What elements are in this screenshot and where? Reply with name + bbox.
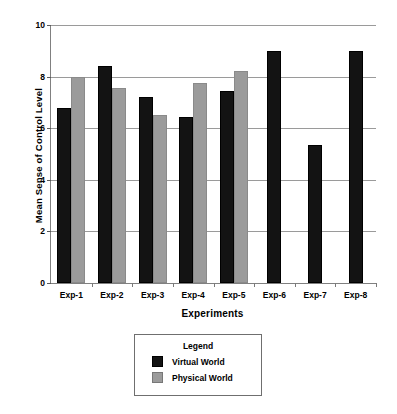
y-axis-tick bbox=[47, 283, 51, 284]
x-axis-tick bbox=[92, 283, 93, 287]
y-axis-tick-label: 2 bbox=[40, 226, 45, 236]
x-axis-tick bbox=[376, 283, 377, 287]
bar-group: Exp-3 bbox=[132, 25, 173, 283]
bar-group: Exp-7 bbox=[295, 25, 336, 283]
x-axis-tick-label-exp-6: Exp-6 bbox=[263, 290, 286, 300]
bar-exp-4-virtual-world bbox=[179, 117, 193, 283]
x-axis-tick bbox=[295, 283, 296, 287]
bar-group: Exp-2 bbox=[92, 25, 133, 283]
bar-exp-2-virtual-world bbox=[98, 66, 112, 283]
legend-title: Legend bbox=[135, 341, 261, 351]
bar-group: Exp-4 bbox=[173, 25, 214, 283]
legend-swatch-virtual-world-icon bbox=[152, 356, 163, 367]
x-axis-tick-label-exp-8: Exp-8 bbox=[344, 290, 367, 300]
legend-label-physical-world: Physical World bbox=[172, 373, 233, 383]
x-axis-tick-label-exp-5: Exp-5 bbox=[222, 290, 245, 300]
bar-group: Exp-5 bbox=[214, 25, 255, 283]
bar-group: Exp-1 bbox=[51, 25, 92, 283]
bar-exp-5-virtual-world bbox=[220, 91, 234, 283]
x-axis-tick-label-exp-2: Exp-2 bbox=[100, 290, 123, 300]
bar-exp-6-virtual-world bbox=[267, 51, 281, 283]
plot-area: 0246810Exp-1Exp-2Exp-3Exp-4Exp-5Exp-6Exp… bbox=[50, 25, 376, 284]
bar-group: Exp-6 bbox=[254, 25, 295, 283]
bar-exp-3-virtual-world bbox=[139, 97, 153, 283]
x-axis-tick-label-exp-1: Exp-1 bbox=[60, 290, 83, 300]
bar-exp-8-virtual-world bbox=[349, 51, 363, 283]
bar-exp-3-physical-world bbox=[153, 115, 167, 283]
bar-exp-5-physical-world bbox=[234, 71, 248, 283]
bar-exp-4-physical-world bbox=[193, 83, 207, 283]
legend: Legend Virtual World Physical World bbox=[134, 334, 262, 396]
bar-exp-2-physical-world bbox=[112, 88, 126, 283]
legend-item-physical-world: Physical World bbox=[135, 372, 261, 383]
legend-label-virtual-world: Virtual World bbox=[172, 357, 225, 367]
y-axis-title: Mean Sense of Control Level bbox=[33, 26, 44, 286]
bar-group: Exp-8 bbox=[335, 25, 376, 283]
x-axis-tick bbox=[254, 283, 255, 287]
y-axis-tick-label: 10 bbox=[36, 20, 45, 30]
x-axis-tick bbox=[335, 283, 336, 287]
bar-exp-1-virtual-world bbox=[57, 108, 71, 283]
x-axis-tick-label-exp-3: Exp-3 bbox=[141, 290, 164, 300]
bar-chart: Mean Sense of Control Level 0246810Exp-1… bbox=[0, 0, 397, 414]
x-axis-tick bbox=[173, 283, 174, 287]
x-axis-tick-label-exp-4: Exp-4 bbox=[182, 290, 205, 300]
x-axis-title: Experiments bbox=[50, 308, 375, 319]
legend-item-virtual-world: Virtual World bbox=[135, 356, 261, 367]
bar-exp-1-physical-world bbox=[71, 77, 85, 283]
x-axis-tick bbox=[214, 283, 215, 287]
x-axis-tick-label-exp-7: Exp-7 bbox=[303, 290, 326, 300]
y-axis-tick-label: 6 bbox=[40, 123, 45, 133]
legend-swatch-physical-world-icon bbox=[152, 372, 163, 383]
x-axis-tick bbox=[132, 283, 133, 287]
y-axis-tick-label: 8 bbox=[40, 72, 45, 82]
bar-exp-7-virtual-world bbox=[308, 145, 322, 283]
y-axis-tick-label: 0 bbox=[40, 278, 45, 288]
y-axis-tick-label: 4 bbox=[40, 175, 45, 185]
